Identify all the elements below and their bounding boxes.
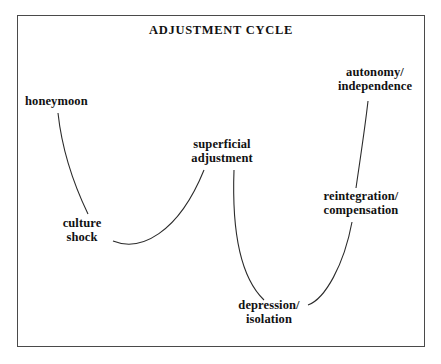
node-reintegration-compensation: reintegration/ compensation bbox=[311, 189, 411, 217]
node-honeymoon: honeymoon bbox=[25, 94, 88, 108]
connector-depression-to-reintegration bbox=[308, 222, 352, 305]
connector-superficial-adjustment-to-depression bbox=[234, 170, 264, 300]
connector-honeymoon-to-culture-shock bbox=[58, 113, 88, 214]
connector-culture-shock-to-superficial-adjustment bbox=[113, 170, 204, 244]
connector-reintegration-to-autonomy bbox=[356, 101, 368, 188]
adjustment-cycle-diagram: ADJUSTMENT CYCLE honeymoon culture shock… bbox=[0, 0, 441, 364]
node-superficial-adjustment: superficial adjustment bbox=[176, 137, 268, 165]
connector-curves bbox=[0, 0, 441, 364]
node-culture-shock: culture shock bbox=[48, 216, 116, 244]
node-depression-isolation: depression/ isolation bbox=[228, 298, 310, 326]
node-autonomy-independence: autonomy/ independence bbox=[329, 65, 421, 93]
